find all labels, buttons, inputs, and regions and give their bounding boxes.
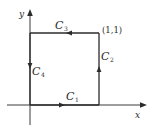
x-axis-label: x bbox=[135, 110, 140, 120]
c3-label-sub: 3 bbox=[64, 25, 68, 32]
label-c2: C 2 bbox=[101, 50, 114, 63]
c4-label-main: C bbox=[32, 65, 41, 78]
y-axis-label: y bbox=[18, 9, 25, 19]
curve-diagram: x y (1,1) C 1 C 2 C 3 C 4 bbox=[0, 0, 154, 132]
label-c3: C 3 bbox=[55, 19, 68, 32]
c1-label-main: C bbox=[66, 90, 75, 103]
c1-direction-arrow-icon bbox=[59, 103, 65, 108]
c4-label-sub: 4 bbox=[41, 71, 45, 78]
c2-label-main: C bbox=[101, 50, 110, 63]
c2-direction-arrow-icon bbox=[97, 66, 102, 72]
x-axis-arrow-icon bbox=[140, 102, 147, 108]
label-c4: C 4 bbox=[32, 65, 45, 78]
y-axis-arrow-icon bbox=[27, 9, 33, 16]
c3-label-main: C bbox=[55, 19, 64, 32]
corner-point-label: (1,1) bbox=[102, 25, 122, 35]
c2-label-sub: 2 bbox=[110, 56, 114, 63]
c1-label-sub: 1 bbox=[75, 96, 79, 103]
label-c1: C 1 bbox=[66, 90, 79, 103]
